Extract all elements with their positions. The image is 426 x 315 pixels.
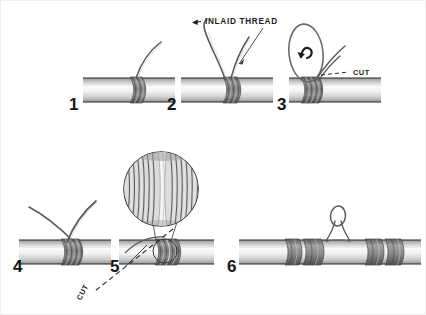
step-1-illustration (81, 42, 177, 103)
step-6-illustration (237, 205, 421, 265)
step-number-1: 1 (69, 96, 78, 113)
step-number-6: 6 (227, 258, 236, 275)
magnified-detail-circle (121, 151, 201, 240)
step-2-illustration (179, 19, 275, 103)
step-number-3: 3 (277, 96, 286, 113)
finished-loop (326, 205, 350, 242)
illustration-canvas (1, 1, 426, 315)
step-4-illustration (17, 201, 113, 265)
illustration-figure: 1 2 3 4 5 6 INLAID THREAD CUT CUT (0, 0, 426, 315)
inlaid-thread-label: INLAID THREAD (205, 18, 278, 26)
cut-label-step-3: CUT (353, 69, 370, 76)
step-number-4: 4 (13, 258, 22, 275)
step-3-illustration (286, 22, 383, 103)
step-number-5: 5 (110, 258, 119, 275)
step-number-2: 2 (167, 96, 176, 113)
